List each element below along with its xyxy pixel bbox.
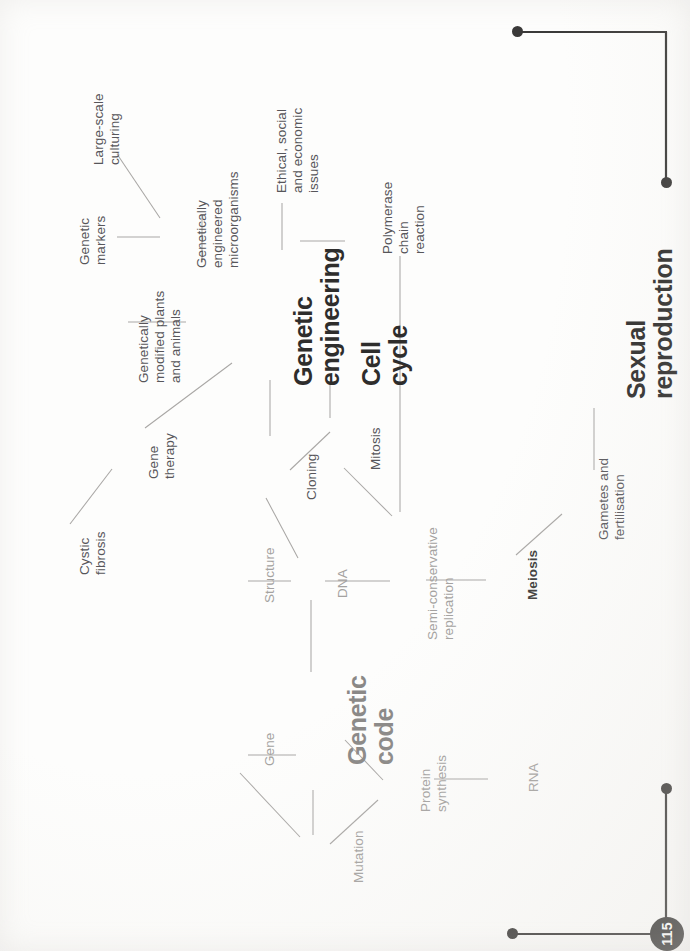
node-meiosis: Meiosis <box>494 550 572 600</box>
node-protein-synthesis: Protein synthesis <box>387 755 481 812</box>
deco-dot-top-right <box>661 177 672 188</box>
node-label: Gametes and fertilisation <box>596 458 627 540</box>
node-semi-conservative-replication: Semi-conservative replication <box>394 527 488 640</box>
page-number-badge: 115 <box>650 917 684 951</box>
node-label: Genetically modified plants and animals <box>136 291 183 383</box>
link-therapy-cf <box>70 469 112 524</box>
node-label: Gene therapy <box>146 433 177 479</box>
node-label: Meiosis <box>525 550 541 600</box>
node-ethical-social-economic-issues: Ethical, social and economic issues <box>243 108 353 193</box>
textbook-page: Large-scale culturing Genetic markers Ge… <box>0 0 690 951</box>
node-label: Protein synthesis <box>418 755 449 812</box>
node-label: Mitosis <box>368 427 384 470</box>
node-label: Large-scale culturing <box>91 93 122 165</box>
node-label: Structure <box>262 547 278 603</box>
node-gametes-and-fertilisation: Gametes and fertilisation <box>565 458 659 540</box>
node-mitosis: Mitosis <box>337 427 415 470</box>
node-label: Genetically engineered microorganisms <box>194 171 241 268</box>
node-polymerase-chain-reaction: Polymerase chain reaction <box>349 182 459 254</box>
node-label: Semi-conservative replication <box>425 527 456 640</box>
node-structure: Structure <box>231 547 309 603</box>
node-label: Sexual reproduction <box>623 248 676 399</box>
node-mutation: Mutation <box>320 830 398 883</box>
node-large-scale-culturing: Large-scale culturing <box>60 93 154 165</box>
node-label: RNA <box>526 763 542 792</box>
node-genetic-code: Genetic code <box>291 675 450 765</box>
node-label: Cell cycle <box>358 325 411 386</box>
node-genetically-modified-plants-and-animals: Genetically modified plants and animals <box>105 291 215 383</box>
link-gene-mutation <box>240 773 300 837</box>
node-label: DNA <box>335 569 351 598</box>
deco-dot-top-left <box>512 26 523 37</box>
node-label: Ethical, social and economic issues <box>274 108 321 193</box>
deco-dot-bottom-left <box>507 928 518 939</box>
node-label: Genetic markers <box>77 216 108 265</box>
node-rna: RNA <box>495 763 573 792</box>
node-gene-therapy: Gene therapy <box>115 433 209 479</box>
node-sexual-reproduction: Sexual reproduction <box>570 248 690 399</box>
deco-dot-bottom-right <box>661 783 672 794</box>
node-genetic-markers: Genetic markers <box>46 216 140 265</box>
node-cystic-fibrosis: Cystic fibrosis <box>46 531 140 575</box>
node-label: Polymerase chain reaction <box>380 182 427 254</box>
node-gene: Gene <box>231 733 309 766</box>
node-label: Cystic fibrosis <box>77 531 108 575</box>
page-number: 115 <box>659 922 675 946</box>
node-label: Genetic code <box>344 675 397 765</box>
node-cell-cycle: Cell cycle <box>305 325 464 386</box>
node-dna: DNA <box>304 569 382 598</box>
node-label: Gene <box>262 733 278 766</box>
node-label: Mutation <box>351 830 367 883</box>
node-label: Cloning <box>304 454 320 500</box>
